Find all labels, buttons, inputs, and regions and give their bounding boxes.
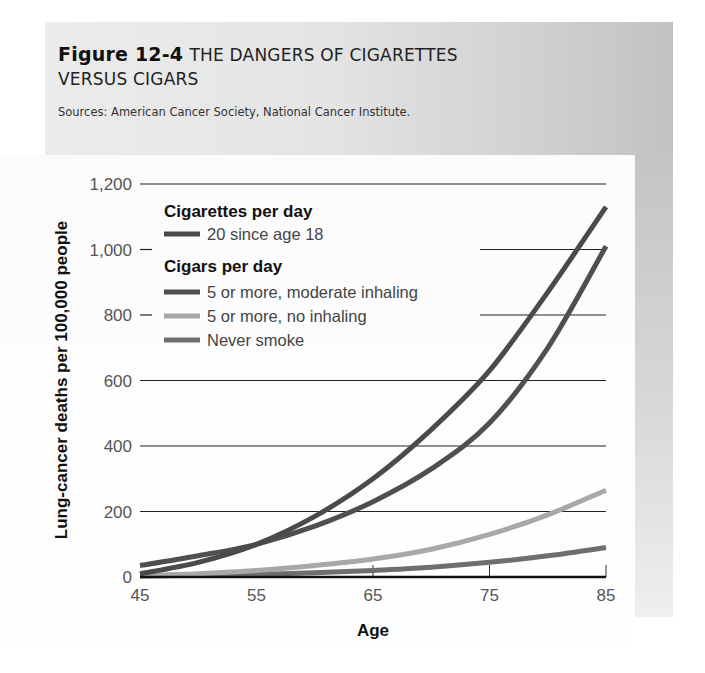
legend-label-moderate-inhaling: 5 or more, moderate inhaling xyxy=(207,283,418,301)
y-tick-label: 1,000 xyxy=(89,241,132,260)
x-tick-label: 65 xyxy=(364,586,383,605)
y-tick-label: 400 xyxy=(104,437,132,456)
line-chart: 02004006008001,0001,200 4555657585 Age L… xyxy=(0,0,705,673)
legend-label-cigarettes: 20 since age 18 xyxy=(207,225,324,243)
x-axis-title: Age xyxy=(357,621,389,640)
legend-heading-cigars: Cigars per day xyxy=(164,257,283,276)
legend-label-never-smoke: Never smoke xyxy=(207,331,304,349)
y-axis-ticks: 02004006008001,0001,200 xyxy=(89,175,132,587)
y-tick-label: 800 xyxy=(104,306,132,325)
y-tick-label: 200 xyxy=(104,503,132,522)
x-tick-label: 85 xyxy=(597,586,616,605)
y-tick-label: 600 xyxy=(104,372,132,391)
x-tick-label: 45 xyxy=(131,586,150,605)
y-axis-title: Lung-cancer deaths per 100,000 people xyxy=(52,221,71,539)
x-tick-label: 75 xyxy=(480,586,499,605)
legend: Cigarettes per day 20 since age 18 Cigar… xyxy=(164,202,418,349)
legend-heading-cigarettes: Cigarettes per day xyxy=(164,202,313,221)
y-tick-label: 1,200 xyxy=(89,175,132,194)
y-tick-label: 0 xyxy=(123,568,132,587)
legend-label-no-inhaling: 5 or more, no inhaling xyxy=(207,307,367,325)
x-tick-label: 55 xyxy=(247,586,266,605)
